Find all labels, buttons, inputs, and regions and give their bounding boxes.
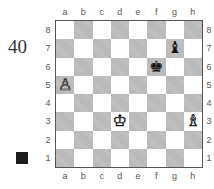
file-label-h-bottom: h <box>184 171 202 181</box>
square-b2[interactable] <box>74 131 92 149</box>
rank-label-7-right: 7 <box>204 39 214 57</box>
file-label-f-top: f <box>147 7 165 17</box>
square-g3[interactable] <box>166 112 184 130</box>
square-f2[interactable] <box>147 131 165 149</box>
square-g1[interactable] <box>166 149 184 167</box>
square-a6[interactable] <box>56 58 74 76</box>
square-c3[interactable] <box>93 112 111 130</box>
square-c4[interactable] <box>93 94 111 112</box>
file-label-b-top: b <box>74 7 92 17</box>
square-b8[interactable] <box>74 21 92 39</box>
side-to-move-indicator <box>16 152 28 164</box>
square-d7[interactable] <box>111 39 129 57</box>
file-label-e-top: e <box>129 7 147 17</box>
square-c5[interactable] <box>93 76 111 94</box>
file-label-f-bottom: f <box>147 171 165 181</box>
rank-label-1-left: 1 <box>43 149 53 167</box>
square-g4[interactable] <box>166 94 184 112</box>
black-king-icon[interactable]: ♚ <box>149 59 163 75</box>
square-b4[interactable] <box>74 94 92 112</box>
rank-label-5-left: 5 <box>43 76 53 94</box>
square-h7[interactable] <box>184 39 202 57</box>
square-c8[interactable] <box>93 21 111 39</box>
square-h1[interactable] <box>184 149 202 167</box>
square-c2[interactable] <box>93 131 111 149</box>
rank-label-8-right: 8 <box>204 21 214 39</box>
square-d4[interactable] <box>111 94 129 112</box>
square-g6[interactable] <box>166 58 184 76</box>
white-bishop-icon[interactable]: ♗ <box>186 113 200 129</box>
puzzle-number: 40 <box>8 36 27 58</box>
square-c7[interactable] <box>93 39 111 57</box>
file-label-d-bottom: d <box>111 171 129 181</box>
chess-board[interactable]: ♝♚♙♔♗ <box>55 20 203 168</box>
square-a4[interactable] <box>56 94 74 112</box>
rank-label-6-right: 6 <box>204 58 214 76</box>
file-label-a-top: a <box>56 7 74 17</box>
white-pawn-icon[interactable]: ♙ <box>58 77 72 93</box>
file-label-g-top: g <box>166 7 184 17</box>
file-label-d-top: d <box>111 7 129 17</box>
rank-label-2-right: 2 <box>204 131 214 149</box>
square-d3[interactable]: ♔ <box>111 112 129 130</box>
square-h3[interactable]: ♗ <box>184 112 202 130</box>
white-king-icon[interactable]: ♔ <box>113 113 127 129</box>
square-b6[interactable] <box>74 58 92 76</box>
square-e7[interactable] <box>129 39 147 57</box>
rank-label-4-right: 4 <box>204 94 214 112</box>
file-label-c-top: c <box>93 7 111 17</box>
square-f4[interactable] <box>147 94 165 112</box>
rank-label-3-right: 3 <box>204 112 214 130</box>
square-f6[interactable]: ♚ <box>147 58 165 76</box>
rank-label-2-left: 2 <box>43 131 53 149</box>
square-g2[interactable] <box>166 131 184 149</box>
rank-label-4-left: 4 <box>43 94 53 112</box>
square-b1[interactable] <box>74 149 92 167</box>
file-label-h-top: h <box>184 7 202 17</box>
square-a2[interactable] <box>56 131 74 149</box>
square-f7[interactable] <box>147 39 165 57</box>
square-b7[interactable] <box>74 39 92 57</box>
square-b3[interactable] <box>74 112 92 130</box>
square-d5[interactable] <box>111 76 129 94</box>
square-a8[interactable] <box>56 21 74 39</box>
rank-label-1-right: 1 <box>204 149 214 167</box>
square-e1[interactable] <box>129 149 147 167</box>
file-label-c-bottom: c <box>93 171 111 181</box>
square-c1[interactable] <box>93 149 111 167</box>
square-e3[interactable] <box>129 112 147 130</box>
square-d2[interactable] <box>111 131 129 149</box>
square-a5[interactable]: ♙ <box>56 76 74 94</box>
square-e8[interactable] <box>129 21 147 39</box>
square-e2[interactable] <box>129 131 147 149</box>
rank-label-7-left: 7 <box>43 39 53 57</box>
square-g7[interactable]: ♝ <box>166 39 184 57</box>
square-h2[interactable] <box>184 131 202 149</box>
square-g8[interactable] <box>166 21 184 39</box>
square-f8[interactable] <box>147 21 165 39</box>
square-a1[interactable] <box>56 149 74 167</box>
square-d1[interactable] <box>111 149 129 167</box>
black-bishop-icon[interactable]: ♝ <box>167 40 181 56</box>
square-f3[interactable] <box>147 112 165 130</box>
square-a7[interactable] <box>56 39 74 57</box>
square-e6[interactable] <box>129 58 147 76</box>
square-g5[interactable] <box>166 76 184 94</box>
square-c6[interactable] <box>93 58 111 76</box>
square-f1[interactable] <box>147 149 165 167</box>
square-e4[interactable] <box>129 94 147 112</box>
square-a3[interactable] <box>56 112 74 130</box>
rank-label-8-left: 8 <box>43 21 53 39</box>
square-h6[interactable] <box>184 58 202 76</box>
rank-label-3-left: 3 <box>43 112 53 130</box>
square-h8[interactable] <box>184 21 202 39</box>
square-d6[interactable] <box>111 58 129 76</box>
square-h5[interactable] <box>184 76 202 94</box>
square-h4[interactable] <box>184 94 202 112</box>
square-b5[interactable] <box>74 76 92 94</box>
square-f5[interactable] <box>147 76 165 94</box>
file-label-e-bottom: e <box>129 171 147 181</box>
square-e5[interactable] <box>129 76 147 94</box>
file-label-g-bottom: g <box>166 171 184 181</box>
square-d8[interactable] <box>111 21 129 39</box>
